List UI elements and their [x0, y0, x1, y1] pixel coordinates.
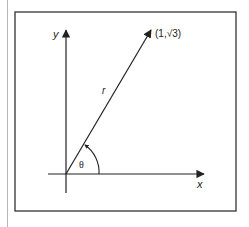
polar-diagram: y x r θ (1,√3)	[0, 0, 249, 227]
endpoint-label: (1,√3)	[155, 28, 181, 39]
x-axis-label: x	[196, 178, 203, 190]
y-axis-label: y	[52, 28, 60, 40]
vector-r-label: r	[102, 85, 106, 96]
figure-frame	[15, 12, 236, 211]
angle-theta-label: θ	[79, 159, 84, 170]
vector-r	[66, 30, 151, 174]
angle-arc	[85, 145, 99, 174]
